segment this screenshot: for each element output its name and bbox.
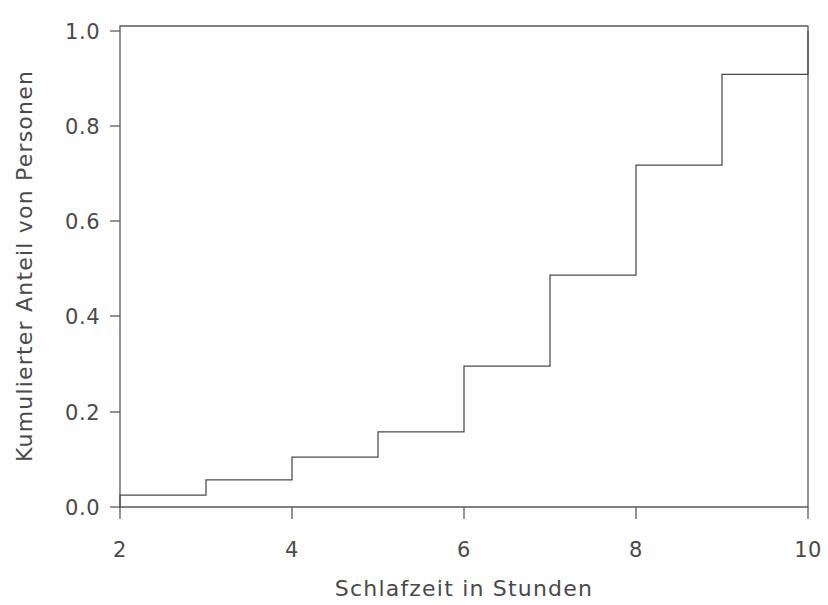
y-tick-label-2: 0.8	[65, 115, 100, 139]
x-tick-label-1: 2	[113, 538, 127, 562]
y-axis-title: Kumulierter Anteil von Personen	[12, 70, 37, 462]
y-tick-label-4: 0.4	[65, 305, 100, 329]
x-tick-label-3: 6	[457, 538, 471, 562]
y-tick-label-1: 1.0	[65, 20, 100, 44]
x-tick-label-5: 10	[794, 538, 822, 562]
x-tick-label-2: 4	[285, 538, 299, 562]
y-tick-marks	[110, 31, 120, 507]
x-tick-marks	[120, 507, 808, 519]
y-tick-label-5: 0.2	[65, 401, 100, 425]
x-axis-title: Schlafzeit in Stunden	[335, 576, 593, 601]
plot-frame	[120, 26, 808, 507]
y-tick-label-6: 0.0	[65, 496, 100, 520]
chart-figure: 1.0 0.8 0.6 0.4 0.2 0.0 2 4 6 8 10 Schla…	[0, 0, 828, 605]
ecdf-step-chart: 1.0 0.8 0.6 0.4 0.2 0.0 2 4 6 8 10 Schla…	[0, 0, 828, 605]
y-tick-label-3: 0.6	[65, 210, 100, 234]
x-tick-label-4: 8	[629, 538, 643, 562]
ecdf-step-curve	[120, 31, 808, 507]
